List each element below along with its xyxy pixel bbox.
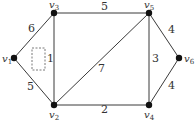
- vertex-label-v3: v3: [49, 0, 59, 12]
- edge-weight-label: 4: [168, 23, 175, 36]
- vertex-labels: v1v2v3v4v5v6: [2, 0, 195, 121]
- vertex-label-v1: v1: [2, 53, 12, 66]
- edge-weight-label: 3: [152, 52, 159, 65]
- edge-weight-label: 4: [168, 79, 175, 92]
- dashed-box: [32, 48, 45, 70]
- edge-weight-label: 6: [28, 22, 35, 35]
- vertex-label-v6: v6: [184, 53, 195, 66]
- edge-v1-v2: [14, 58, 54, 105]
- vertex-v6: [176, 55, 182, 61]
- edge-weight-label: 7: [98, 62, 105, 75]
- edge-weight-label: 1: [47, 52, 54, 65]
- vertex-label-v5: v5: [144, 0, 154, 12]
- edge-weight-label: 5: [27, 80, 34, 93]
- edge-weight-label: 2: [101, 103, 108, 116]
- weighted-graph-diagram: 651572344 v1v2v3v4v5v6: [0, 0, 195, 121]
- edge-weight-label: 5: [101, 0, 108, 13]
- vertex-label-v2: v2: [49, 109, 59, 121]
- edge-v2-v5: [54, 13, 149, 105]
- vertex-label-v4: v4: [144, 109, 155, 121]
- vertex-v4: [146, 102, 152, 108]
- vertex-v2: [51, 102, 57, 108]
